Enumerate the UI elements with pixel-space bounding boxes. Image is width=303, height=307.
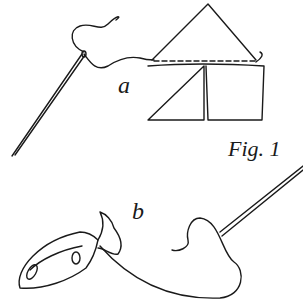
- label-b: b: [132, 198, 144, 225]
- label-a: a: [118, 72, 130, 99]
- figure-caption: Fig. 1: [228, 136, 281, 162]
- needle-icon: [12, 51, 86, 156]
- needle-b-icon: [220, 166, 303, 236]
- sewing-illustration: a b Fig. 1: [0, 0, 303, 307]
